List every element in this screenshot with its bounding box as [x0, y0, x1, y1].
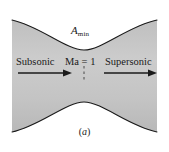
mach-one-label: Ma = 1 — [65, 57, 95, 68]
supersonic-region-label: Supersonic — [105, 57, 152, 68]
nozzle-figure: Amin Subsonic Ma = 1 Supersonic (a) — [0, 0, 169, 152]
figure-caption: (a) — [0, 127, 169, 137]
subsonic-region-label: Subsonic — [16, 57, 55, 68]
caption-close-paren: ) — [87, 126, 90, 137]
throat-area-symbol: A — [71, 24, 78, 36]
throat-area-label: Amin — [71, 25, 89, 38]
throat-area-subscript: min — [78, 30, 90, 38]
